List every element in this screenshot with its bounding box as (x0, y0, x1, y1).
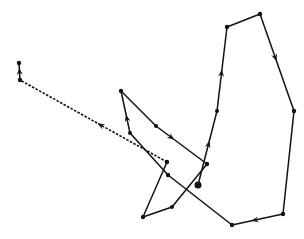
path-node (166, 173, 170, 177)
path-segment-solid (217, 27, 227, 111)
path-segment-solid (227, 14, 260, 27)
path-segment-solid (260, 14, 294, 111)
path-node (292, 109, 296, 113)
path-segment-solid (232, 214, 283, 225)
path-node (258, 12, 262, 16)
path-segment-solid (283, 111, 294, 214)
start-point (195, 182, 202, 189)
path-node (215, 109, 219, 113)
path-segment-solid (198, 111, 217, 185)
path-node (165, 160, 169, 164)
path-node (154, 124, 158, 128)
path-segment-solid (121, 91, 130, 133)
path-node (141, 215, 145, 219)
path-node (128, 131, 132, 135)
path-node (281, 212, 285, 216)
path-segment-solid (143, 162, 167, 217)
end-point (17, 61, 21, 65)
path-node (205, 162, 209, 166)
path-segment-solid (121, 91, 156, 126)
path-node (225, 25, 229, 29)
path-segments (19, 14, 294, 225)
path-segment-solid (130, 133, 168, 175)
path-node (18, 78, 22, 82)
path-segment-dashed (20, 80, 167, 162)
path-segment-solid (156, 126, 207, 164)
path-node (119, 89, 123, 93)
direction-arrows (17, 53, 277, 222)
path-node (170, 205, 174, 209)
path-node (230, 223, 234, 227)
path-nodes (17, 12, 296, 227)
movement-path-diagram (0, 0, 304, 239)
